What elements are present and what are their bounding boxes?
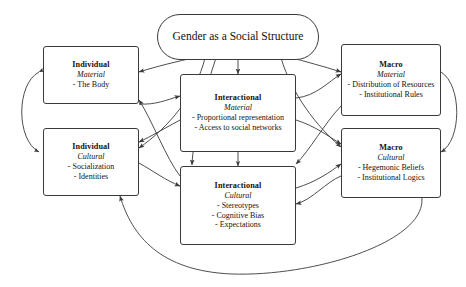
node-macro-cultural[interactable]: Macro Cultural - Hegemonic Beliefs - Ins…	[341, 128, 441, 198]
diagram-canvas: Gender as a Social Structure Individual …	[0, 0, 466, 287]
center-node-gender-as-a-social-structure[interactable]: Gender as a Social Structure	[157, 14, 319, 60]
node-item: - Institutional Logics	[357, 173, 424, 183]
node-level-label: Individual	[72, 60, 109, 70]
node-item: - Access to social networks	[192, 123, 284, 133]
node-items: - Hegemonic Beliefs - Institutional Logi…	[357, 163, 424, 183]
node-item: - Expectations	[212, 220, 264, 230]
edge-interactional-material-to-macro-cultural	[296, 120, 341, 144]
node-domain-label: Material	[77, 70, 105, 80]
node-domain-label: Cultural	[377, 153, 404, 163]
node-item: - Identities	[68, 172, 114, 182]
node-level-label: Interactional	[215, 93, 262, 103]
node-level-label: Macro	[379, 60, 403, 70]
node-domain-label: Cultural	[77, 152, 104, 162]
edge-interactional-cultural-to-macro-cultural	[296, 164, 341, 188]
node-interactional-cultural[interactable]: Interactional Cultural - Stereotypes - C…	[180, 166, 296, 245]
node-items: - Stereotypes - Cognitive Bias - Expecta…	[212, 201, 264, 231]
node-items: - Socialization - Identities	[68, 162, 114, 182]
edge-interactional-cultural-to-individual-material	[139, 100, 180, 176]
node-items: - Proportional representation - Access t…	[192, 113, 284, 133]
node-item: - Stereotypes	[212, 201, 264, 211]
node-item: - The Body	[73, 80, 109, 90]
edge-macro-cultural-to-interactional-cultural	[296, 176, 341, 204]
node-individual-material[interactable]: Individual Material - The Body	[43, 46, 139, 104]
edge-interactional-material-to-macro-material	[296, 74, 341, 98]
center-node-label: Gender as a Social Structure	[173, 30, 304, 44]
edge-macro-material-cultural	[441, 72, 457, 152]
node-item: - Cognitive Bias	[212, 211, 264, 221]
node-item: - Proportional representation	[192, 113, 284, 123]
node-level-label: Interactional	[215, 181, 262, 191]
node-level-label: Macro	[379, 143, 403, 153]
node-domain-label: Material	[224, 103, 252, 113]
node-item: - Distribution of Resources	[348, 80, 435, 90]
node-item: - Hegemonic Beliefs	[357, 163, 424, 173]
node-domain-label: Material	[377, 70, 405, 80]
edge-macro-material-to-interactional-cultural	[296, 106, 341, 164]
node-item: - Socialization	[68, 162, 114, 172]
node-interactional-material[interactable]: Interactional Material - Proportional re…	[180, 74, 296, 152]
node-items: - The Body	[73, 80, 109, 90]
node-level-label: Individual	[72, 142, 109, 152]
node-domain-label: Cultural	[224, 191, 251, 201]
node-individual-cultural[interactable]: Individual Cultural - Socialization - Id…	[43, 128, 139, 196]
node-item: - Institutional Rules	[348, 90, 435, 100]
edge-individual-material-to-interactional-material	[139, 96, 180, 104]
edge-individual-material-cultural	[22, 72, 39, 152]
node-items: - Distribution of Resources - Institutio…	[348, 80, 435, 100]
node-macro-material[interactable]: Macro Material - Distribution of Resourc…	[341, 44, 441, 116]
